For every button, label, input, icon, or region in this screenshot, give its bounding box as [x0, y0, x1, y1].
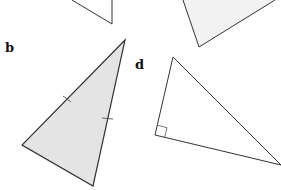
triangle-d	[155, 57, 281, 165]
label-d: d	[135, 58, 144, 71]
triangle-c	[183, 0, 275, 47]
triangle-a	[72, 0, 112, 24]
diagram-canvas	[0, 0, 281, 190]
triangle-b	[22, 40, 125, 186]
label-b: b	[5, 41, 14, 54]
